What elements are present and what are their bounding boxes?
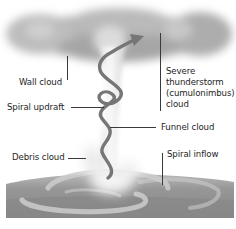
label-funnel-cloud: Funnel cloud [161, 122, 214, 133]
tornado-illustration [0, 0, 236, 229]
label-severe-storm-line1: Severe [166, 66, 195, 77]
label-spiral-updraft: Spiral updraft [7, 102, 64, 113]
label-severe-storm-line4: cloud [166, 99, 189, 110]
spiral-updraft-leader [71, 107, 104, 108]
wall-cloud-leader [67, 56, 68, 80]
tornado-diagram: Wall cloud Spiral updraft Severe thunder… [0, 0, 236, 229]
spiral-inflow-leader [162, 153, 163, 185]
funnel-cloud-leader [110, 127, 156, 128]
debris-cloud-leader [68, 158, 86, 159]
label-severe-storm-line2: thunderstorm [166, 77, 224, 88]
severe-storm-leader [160, 33, 161, 111]
label-severe-storm-line3: (cumulonimbus) [166, 88, 235, 99]
label-wall-cloud: Wall cloud [4, 77, 62, 88]
label-debris-cloud: Debris cloud [12, 152, 65, 163]
label-spiral-inflow: Spiral inflow [167, 149, 218, 160]
